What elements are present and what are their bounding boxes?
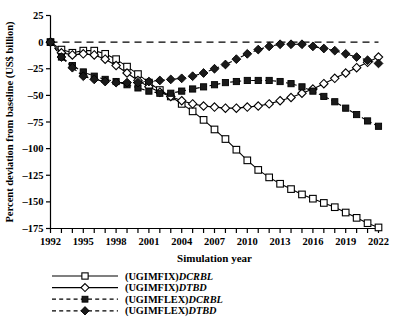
data-point-marker [255, 77, 261, 83]
data-point-marker [375, 224, 382, 231]
data-point-marker [189, 108, 196, 115]
data-point-marker [211, 126, 218, 133]
data-point-marker [266, 77, 272, 83]
data-point-marker [82, 273, 88, 279]
y-axis-tick-label: 25 [33, 10, 44, 21]
y-axis-tick-label: 0 [38, 37, 43, 48]
x-axis-tick-label: 2019 [335, 236, 356, 247]
y-axis-tick-label: –175 [22, 223, 44, 234]
data-point-marker [222, 136, 229, 143]
y-axis-tick-label: –50 [27, 90, 44, 101]
data-point-marker [211, 82, 217, 88]
legend-label-variable: DCRBL [188, 294, 223, 305]
data-point-marker [244, 157, 251, 164]
legend-label-prefix: (UGIMFIX) [125, 271, 179, 283]
data-point-marker [82, 296, 88, 302]
data-point-marker [190, 86, 196, 92]
data-point-marker [321, 200, 328, 207]
data-point-marker [179, 88, 185, 94]
data-point-marker [343, 105, 349, 111]
x-axis-tick-label: 2010 [237, 236, 258, 247]
x-axis-tick-label: 1992 [40, 236, 61, 247]
x-axis-tick-label: 2013 [270, 236, 291, 247]
data-point-marker [288, 81, 294, 87]
data-point-marker [364, 220, 371, 227]
data-point-marker [222, 79, 228, 85]
y-axis-label-group: Percent deviation from baseline (US$ bil… [4, 21, 16, 223]
x-axis-tick-label: 1998 [106, 236, 127, 247]
legend-label: (UGIMFIX)DCRBL [125, 271, 213, 283]
x-axis-tick-label: 2001 [138, 236, 159, 247]
data-point-marker [157, 90, 163, 96]
data-point-marker [375, 123, 381, 129]
legend-label: (UGIMFIX)DTBD [125, 282, 207, 294]
y-axis-title: Percent deviation from baseline (US$ bil… [4, 21, 16, 223]
data-point-marker [299, 191, 306, 198]
data-point-marker [288, 186, 295, 193]
data-point-marker [146, 88, 152, 94]
legend-label-prefix: (UGIMFIX) [125, 282, 179, 294]
x-axis-tick-label: 2004 [171, 236, 193, 247]
data-point-marker [310, 88, 316, 94]
x-axis-tick-label: 1995 [73, 236, 94, 247]
data-point-marker [331, 204, 338, 211]
y-axis-tick-label: –125 [22, 170, 44, 181]
legend-label: (UGIMFLEX)DCRBL [125, 294, 223, 306]
data-point-marker [233, 146, 240, 153]
chart-figure: Percent deviation from baseline (US$ bil… [0, 0, 398, 324]
data-point-marker [321, 93, 327, 99]
data-point-marker [277, 78, 283, 84]
data-point-marker [255, 167, 262, 174]
x-axis-title: Simulation year [177, 252, 252, 264]
y-axis-tick-label: –150 [22, 196, 44, 207]
data-point-marker [332, 99, 338, 105]
data-point-marker [233, 78, 239, 84]
legend-label-variable: DTBD [188, 305, 218, 316]
data-point-marker [168, 90, 174, 96]
y-axis-tick-label: –25 [27, 63, 44, 74]
data-point-marker [200, 84, 206, 90]
x-axis-tick-label: 2016 [302, 236, 323, 247]
x-axis-tick-label: 2007 [204, 236, 225, 247]
data-point-marker [342, 209, 349, 216]
data-point-marker [244, 77, 250, 83]
line-chart: Percent deviation from baseline (US$ bil… [0, 0, 398, 324]
data-point-marker [200, 117, 207, 124]
y-axis-tick-label: –100 [22, 143, 44, 154]
x-axis-tick-label: 2022 [368, 236, 389, 247]
legend-label-prefix: (UGIMFLEX) [125, 305, 189, 317]
legend-label-variable: DCRBL [178, 271, 213, 282]
legend-label-variable: DTBD [178, 282, 208, 293]
data-point-marker [354, 111, 360, 117]
data-point-marker [277, 180, 284, 187]
data-point-marker [266, 174, 273, 181]
legend-label: (UGIMFLEX)DTBD [125, 305, 217, 317]
data-point-marker [299, 84, 305, 90]
data-point-marker [353, 215, 360, 222]
data-point-marker [310, 195, 317, 202]
legend-label-prefix: (UGIMFLEX) [125, 294, 189, 306]
data-point-marker [364, 118, 370, 124]
y-axis-tick-label: –75 [27, 117, 44, 128]
x-axis-label-group: Simulation year [177, 252, 252, 264]
